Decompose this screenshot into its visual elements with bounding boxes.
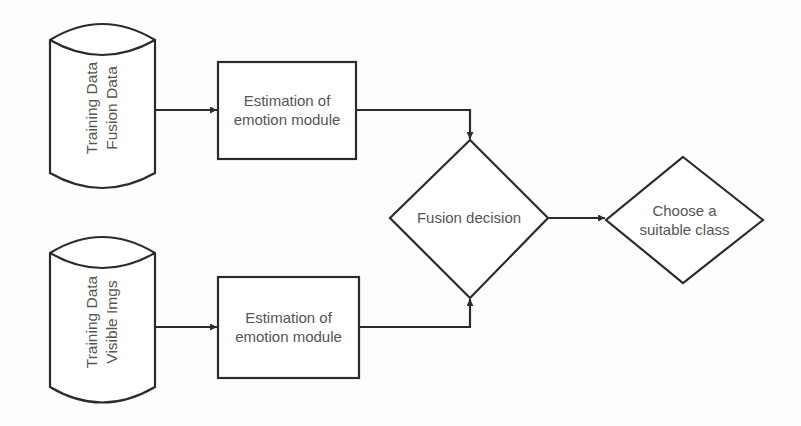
estimation-module-label-top: Estimation of emotion module: [218, 91, 356, 129]
choose-class-label: Choose a suitable class: [606, 201, 763, 239]
box-label-line1: Estimation of: [218, 308, 359, 327]
diamond-label-line2: suitable class: [606, 220, 763, 239]
cylinder-label-line1: Training Data: [82, 43, 102, 173]
cylinder-label-line1: Training Data: [82, 257, 102, 387]
cylinder-label-line2: Fusion Data: [102, 43, 122, 173]
box-label-line2: emotion module: [218, 327, 359, 346]
cylinder-label-line2: Visible Imgs: [102, 257, 122, 387]
cylinder-label-visible-imgs: Training Data Visible Imgs: [82, 257, 122, 387]
estimation-module-label-bottom: Estimation of emotion module: [218, 308, 359, 346]
box-label-line2: emotion module: [218, 110, 356, 129]
diamond-label-line1: Choose a: [606, 201, 763, 220]
arrow-est1-to-fusion: [356, 110, 470, 139]
box-label-line1: Estimation of: [218, 91, 356, 110]
arrow-est2-to-fusion: [359, 299, 470, 327]
fusion-decision-label: Fusion decision: [390, 208, 548, 227]
cylinder-label-fusion-data: Training Data Fusion Data: [82, 43, 122, 173]
